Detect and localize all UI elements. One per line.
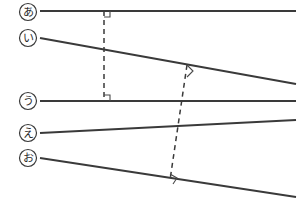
right-angle-icon-i xyxy=(187,65,193,77)
label-text-a: あ xyxy=(23,6,34,19)
label-o: お xyxy=(20,150,37,167)
line-e xyxy=(40,120,296,133)
figure-canvas: あ い う え お xyxy=(0,0,307,213)
line-i xyxy=(40,38,296,84)
perpendicular-segment-2 xyxy=(170,65,187,180)
label-u: う xyxy=(20,93,37,110)
solid-lines-group xyxy=(40,11,296,197)
dashed-lines-group xyxy=(104,11,187,180)
label-text-u: う xyxy=(23,95,34,108)
label-e: え xyxy=(20,125,37,142)
label-text-o: お xyxy=(23,152,34,165)
line-o xyxy=(40,158,296,197)
right-angle-marks-group xyxy=(104,11,193,184)
geometry-figure: あ い う え お xyxy=(0,0,307,213)
label-text-i: い xyxy=(23,32,34,45)
label-i: い xyxy=(20,30,37,47)
label-a: あ xyxy=(20,4,37,21)
label-text-e: え xyxy=(23,127,34,140)
